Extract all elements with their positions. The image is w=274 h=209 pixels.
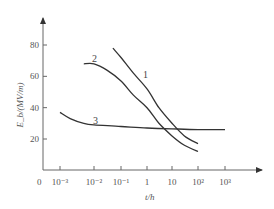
- x-tick-label: 10⁻¹: [113, 177, 130, 187]
- x-ticks: 10⁻³10⁻²10⁻¹11010²10³: [52, 166, 231, 187]
- chart-canvas: 20406080 10⁻³10⁻²10⁻¹11010²10³ 0 t/h E_b…: [0, 0, 274, 209]
- y-tick-label: 60: [30, 71, 40, 81]
- x-tick-label: 10⁻³: [52, 177, 69, 187]
- curves: [60, 48, 225, 151]
- x-tick-label: 10⁻²: [86, 177, 103, 187]
- curve-2: [84, 63, 198, 151]
- line-chart: 20406080 10⁻³10⁻²10⁻¹11010²10³ 0 t/h E_b…: [0, 0, 274, 209]
- curve-1-label: 1: [143, 69, 148, 80]
- y-tick-label: 80: [30, 40, 40, 50]
- y-tick-label: 40: [30, 103, 40, 113]
- x-tick-label: 1: [145, 177, 150, 187]
- curve-3-label: 3: [93, 115, 98, 126]
- curve-3: [60, 112, 225, 129]
- y-axis-title: E_b/(MV/m): [15, 83, 25, 129]
- curve-2-label: 2: [92, 53, 97, 64]
- x-tick-label: 10²: [192, 177, 204, 187]
- x-axis-title: t/h: [145, 192, 155, 202]
- origin-label: 0: [37, 177, 42, 187]
- y-tick-label: 20: [30, 134, 40, 144]
- x-tick-label: 10³: [219, 177, 231, 187]
- x-tick-label: 10: [168, 177, 178, 187]
- y-ticks: 20406080: [30, 40, 47, 144]
